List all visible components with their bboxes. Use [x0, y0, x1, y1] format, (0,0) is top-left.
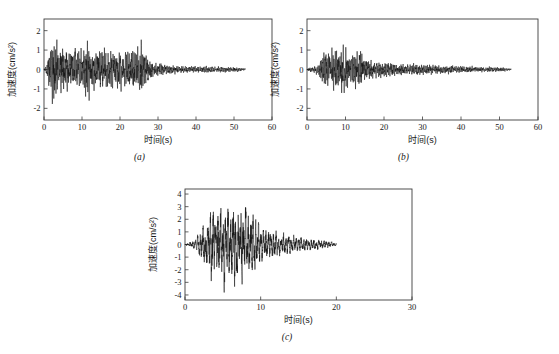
svg-text:2: 2	[177, 214, 181, 224]
svg-text:0: 0	[177, 240, 181, 250]
svg-text:40: 40	[457, 122, 466, 132]
svg-text:10: 10	[78, 122, 87, 132]
svg-text:40: 40	[192, 122, 201, 132]
svg-text:10: 10	[256, 302, 265, 312]
svg-text:0: 0	[42, 122, 46, 132]
svg-text:20: 20	[116, 122, 125, 132]
panel-c-yaxis-title-group: 加速度(cm/s²)	[147, 217, 158, 272]
panel-a-xaxis-title: 时间(s)	[144, 134, 173, 145]
panel-b-caption: (b)	[264, 152, 543, 162]
svg-text:1: 1	[36, 45, 40, 55]
svg-text:-1: -1	[174, 252, 181, 262]
svg-text:20: 20	[380, 122, 389, 132]
svg-text:-2: -2	[296, 103, 303, 113]
panel-b-xaxis-title: 时间(s)	[408, 134, 437, 145]
panel-a-yaxis-title-group: 加速度(cm/s²)	[6, 42, 17, 97]
svg-text:2: 2	[36, 26, 40, 36]
panel-a-acceleration-plot: 0102030405060-2-1012 时间(s) 加速度(cm/s²) (a…	[0, 8, 279, 158]
svg-text:0: 0	[299, 65, 303, 75]
panel-c-caption: (c)	[142, 332, 432, 342]
svg-text:0: 0	[36, 65, 40, 75]
svg-text:-2: -2	[174, 265, 181, 275]
svg-text:30: 30	[408, 302, 417, 312]
svg-text:4: 4	[177, 189, 182, 199]
panel-a-yaxis-title: 加速度(cm/s²)	[6, 42, 17, 97]
panel-c-yaxis-title: 加速度(cm/s²)	[147, 217, 158, 272]
panel-c-xaxis-title: 时间(s)	[284, 314, 313, 325]
svg-text:50: 50	[230, 122, 239, 132]
panel-c-svg: 0102030-4-3-2-101234 时间(s) 加速度(cm/s²)	[142, 180, 432, 350]
svg-text:0: 0	[183, 302, 187, 312]
panel-c-acceleration-plot: 0102030-4-3-2-101234 时间(s) 加速度(cm/s²) (c…	[142, 180, 432, 350]
panel-c-frame	[185, 189, 412, 300]
svg-text:0: 0	[305, 122, 309, 132]
svg-text:-2: -2	[33, 103, 40, 113]
panel-b-svg: 0102030405060-2-1012 时间(s) 加速度(cm/s²)	[264, 8, 559, 158]
svg-text:3: 3	[177, 202, 181, 212]
svg-text:-3: -3	[174, 277, 181, 287]
svg-text:30: 30	[154, 122, 163, 132]
svg-text:10: 10	[341, 122, 350, 132]
svg-text:30: 30	[418, 122, 427, 132]
svg-text:50: 50	[495, 122, 504, 132]
svg-text:-1: -1	[33, 84, 40, 94]
panel-a-svg: 0102030405060-2-1012 时间(s) 加速度(cm/s²)	[0, 8, 279, 158]
panel-b-yaxis-title: 加速度(cm/s²)	[269, 42, 280, 97]
panel-a-caption: (a)	[0, 152, 279, 162]
svg-text:2: 2	[299, 26, 303, 36]
acceleration-time-history-figure: 0102030405060-2-1012 时间(s) 加速度(cm/s²) (a…	[0, 0, 559, 354]
svg-text:1: 1	[299, 45, 303, 55]
svg-text:60: 60	[534, 122, 543, 132]
panel-b-acceleration-plot: 0102030405060-2-1012 时间(s) 加速度(cm/s²) (b…	[264, 8, 559, 158]
svg-text:-4: -4	[174, 290, 182, 300]
panel-b-yaxis-title-group: 加速度(cm/s²)	[269, 42, 280, 97]
svg-text:20: 20	[332, 302, 341, 312]
svg-text:1: 1	[177, 227, 181, 237]
svg-text:-1: -1	[296, 84, 303, 94]
